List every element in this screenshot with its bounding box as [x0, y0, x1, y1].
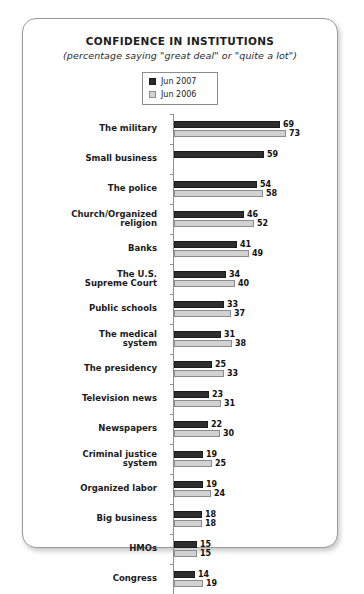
- bar-group: 3440: [173, 264, 333, 294]
- bar-value-label: 31: [224, 399, 235, 408]
- bar: [174, 550, 197, 557]
- chart-panel: CONFIDENCE IN INSTITUTIONS (percentage s…: [22, 18, 338, 548]
- bar-wrapper: 19: [174, 451, 217, 458]
- category-label: Public schools: [23, 304, 163, 314]
- bar-group: 1925: [173, 444, 333, 474]
- axis-line: [173, 534, 174, 564]
- axis-tick: [170, 474, 173, 475]
- bar-group: 1818: [173, 504, 333, 534]
- category-label-line: Congress: [23, 574, 157, 584]
- axis-tick: [170, 174, 173, 175]
- chart-row: Big business1818: [23, 504, 337, 534]
- axis-tick: [170, 414, 173, 415]
- bar-group: 4149: [173, 234, 333, 264]
- bar-group: 2331: [173, 384, 333, 414]
- bar-value-label: 19: [206, 480, 217, 489]
- axis-tick: [170, 564, 173, 565]
- category-label-line: Television news: [23, 394, 157, 404]
- axis-line: [173, 324, 174, 354]
- bar: [174, 421, 208, 428]
- bar-value-label: 73: [289, 129, 300, 138]
- bar-wrapper: 40: [174, 280, 249, 287]
- axis-line: [173, 234, 174, 264]
- chart-row: The U.S.Supreme Court3440: [23, 264, 337, 294]
- axis-tick: [170, 384, 173, 385]
- category-label: Organized labor: [23, 484, 163, 494]
- bar: [174, 130, 286, 137]
- bar-value-label: 19: [206, 579, 217, 588]
- bar-group: 2230: [173, 414, 333, 444]
- bar-wrapper: 19: [174, 481, 217, 488]
- axis-line: [173, 294, 174, 324]
- bar-value-label: 33: [227, 369, 238, 378]
- bar-wrapper: 31: [174, 331, 235, 338]
- bar: [174, 241, 237, 248]
- axis-tick: [170, 534, 173, 535]
- bar-value-label: 34: [229, 270, 240, 279]
- bar: [174, 580, 203, 587]
- category-label: Church/Organizedreligion: [23, 210, 163, 229]
- bar-value-label: 15: [200, 540, 211, 549]
- bar-wrapper: 33: [174, 370, 238, 377]
- axis-line: [173, 264, 174, 294]
- bar-wrapper: 46: [174, 211, 258, 218]
- bar-value-label: 18: [205, 519, 216, 528]
- bar: [174, 571, 195, 578]
- bar-value-label: 31: [224, 330, 235, 339]
- bar: [174, 541, 197, 548]
- axis-line: [173, 474, 174, 504]
- axis-tick: [170, 264, 173, 265]
- bar-wrapper: 15: [174, 550, 211, 557]
- legend-swatch-icon-jun-2006: [149, 91, 156, 98]
- bar-wrapper: 73: [174, 130, 300, 137]
- bar: [174, 340, 232, 347]
- chart-row: Congress1419: [23, 564, 337, 594]
- chart-row: The presidency2533: [23, 354, 337, 384]
- bar: [174, 400, 221, 407]
- chart-row: Television news2331: [23, 384, 337, 414]
- bar-value-label: 49: [252, 249, 263, 258]
- chart-row: The medicalsystem3138: [23, 324, 337, 354]
- bar-value-label: 54: [260, 180, 271, 189]
- chart-title: CONFIDENCE IN INSTITUTIONS: [23, 35, 337, 47]
- bar-wrapper: 22: [174, 421, 222, 428]
- legend-label-jun-2007: Jun 2007: [161, 77, 196, 86]
- chart-row: Public schools3337: [23, 294, 337, 324]
- bar-wrapper: 31: [174, 400, 235, 407]
- bar-group: 1419: [173, 564, 333, 594]
- chart-legend: Jun 2007 Jun 2006: [142, 72, 218, 105]
- category-label: The police: [23, 184, 163, 194]
- bar-value-label: 14: [198, 570, 209, 579]
- bar: [174, 310, 231, 317]
- category-label: Newspapers: [23, 424, 163, 434]
- category-label-line: Supreme Court: [23, 279, 157, 289]
- axis-tick: [170, 444, 173, 445]
- chart-row: Newspapers2230: [23, 414, 337, 444]
- category-label: The presidency: [23, 364, 163, 374]
- bar-wrapper: 14: [174, 571, 209, 578]
- axis-line: [173, 144, 174, 174]
- bar-wrapper: 25: [174, 460, 226, 467]
- category-label-line: system: [23, 339, 157, 349]
- axis-tick: [170, 114, 173, 115]
- bar-value-label: 15: [200, 549, 211, 558]
- axis-tick: [170, 354, 173, 355]
- legend-item-jun-2006: Jun 2006: [149, 89, 211, 100]
- axis-line: [173, 384, 174, 414]
- bar-wrapper: 23: [174, 391, 223, 398]
- bar-value-label: 59: [267, 150, 278, 159]
- bar-value-label: 38: [235, 339, 246, 348]
- axis-tick: [170, 294, 173, 295]
- bar-value-label: 52: [257, 219, 268, 228]
- chart-row: Organized labor1924: [23, 474, 337, 504]
- chart-header: CONFIDENCE IN INSTITUTIONS (percentage s…: [23, 19, 337, 61]
- bar: [174, 430, 220, 437]
- chart-row: Banks4149: [23, 234, 337, 264]
- axis-line: [173, 114, 174, 144]
- chart-row: The military6973: [23, 114, 337, 144]
- bar-value-label: 23: [212, 390, 223, 399]
- category-label-line: The military: [23, 124, 157, 134]
- bar-wrapper: 37: [174, 310, 245, 317]
- bar: [174, 490, 211, 497]
- bar-group: 59: [173, 144, 333, 174]
